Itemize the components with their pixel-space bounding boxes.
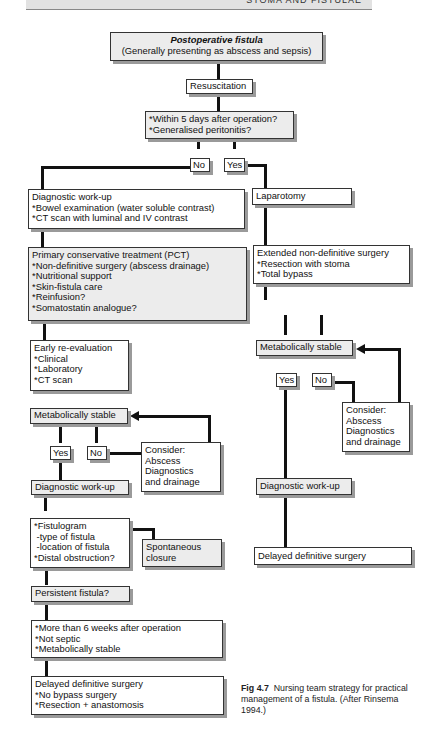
connector xyxy=(95,423,98,443)
text-line: *Metabolically stable xyxy=(35,644,219,655)
no-text: No xyxy=(315,374,327,385)
connector xyxy=(197,139,200,149)
decision-line: *Within 5 days after operation? xyxy=(149,114,290,125)
text-line: Delayed definitive surgery xyxy=(35,679,220,690)
text-line: Persistent fistula? xyxy=(35,588,126,599)
workup-label: Diagnostic work-up xyxy=(35,482,125,493)
criteria-node: *More than 6 weeks after operation *Not … xyxy=(31,620,223,658)
yes-label: Yes xyxy=(224,158,245,172)
running-head-text: STOMA AND FISTULAE xyxy=(246,0,362,5)
text-line: *Distal obstruction? xyxy=(34,553,126,564)
connector xyxy=(45,658,48,676)
caption-label: Fig 4.7 xyxy=(241,683,269,693)
fistulogram-node: *Fistulogram -type of fistula -location … xyxy=(30,518,130,568)
text-line: Early re-evaluation xyxy=(34,343,125,354)
text-line: and drainage xyxy=(346,437,406,448)
start-node: Postoperative fistula (Generally present… xyxy=(110,32,323,61)
text-line: Consider: xyxy=(346,405,406,416)
text-line: *Fistulogram xyxy=(34,521,126,532)
decision-line: *Generalised peritonitis? xyxy=(149,125,290,136)
text-line: Extended non-definitive surgery xyxy=(257,248,406,259)
figure-caption: Fig 4.7 Nursing team strategy for practi… xyxy=(241,683,421,715)
consider-right-node: Consider: Abscess Diagnostics and draina… xyxy=(342,402,410,452)
no-label: No xyxy=(190,158,210,172)
text-line: Diagnostic work-up xyxy=(32,192,241,203)
text-line: *CT scan with luminal and IV contrast xyxy=(32,213,241,224)
extended-surgery-node: Extended non-definitive surgery *Resecti… xyxy=(253,245,410,284)
yes-text: Yes xyxy=(279,374,294,385)
no-text: No xyxy=(90,447,102,458)
workup-label: Diagnostic work-up xyxy=(260,481,348,492)
metabolically-stable-left: Metabolically stable xyxy=(30,408,128,424)
connector xyxy=(264,205,267,247)
resuscitation-node: Resuscitation xyxy=(186,79,253,94)
connector xyxy=(244,164,266,167)
connector xyxy=(43,320,46,340)
connector xyxy=(44,493,47,511)
connector xyxy=(264,283,267,300)
diagnostic-workup-left: Diagnostic work-up xyxy=(31,480,129,495)
text-line: Delayed definitive surgery xyxy=(258,551,408,562)
text-line: *Total bypass xyxy=(257,269,406,280)
connector xyxy=(208,415,211,443)
connector xyxy=(284,380,287,492)
arrow-head-icon xyxy=(356,344,365,354)
resuscitation-label: Resuscitation xyxy=(190,81,249,92)
arrow-head-icon xyxy=(130,411,139,421)
connector xyxy=(59,423,62,443)
connector xyxy=(320,315,323,335)
running-head: STOMA AND FISTULAE xyxy=(26,0,372,10)
no-text: No xyxy=(193,159,205,170)
connector xyxy=(106,452,142,455)
metab-label: Metabolically stable xyxy=(34,410,124,421)
start-title: Postoperative fistula xyxy=(114,35,319,46)
yes-text: Yes xyxy=(53,447,68,458)
diagnostic-workup-right: Diagnostic work-up xyxy=(256,478,352,495)
yes-label-left: Yes xyxy=(50,446,71,460)
laparotomy-label: Laparotomy xyxy=(256,191,348,202)
no-label-left: No xyxy=(87,446,107,460)
connector xyxy=(233,139,236,149)
connector xyxy=(217,93,220,112)
text-line: Spontaneous xyxy=(146,542,218,553)
text-line: *CT scan xyxy=(34,375,125,386)
connector xyxy=(45,567,48,585)
connector xyxy=(41,228,44,248)
text-line: and drainage xyxy=(145,477,217,488)
yes-text: Yes xyxy=(227,159,242,170)
consider-left-node: Consider: Abscess Diagnostics and draina… xyxy=(141,442,221,492)
connector xyxy=(284,497,287,547)
persistent-fistula-node: Persistent fistula? xyxy=(31,586,130,602)
text-line: Consider: xyxy=(145,445,217,456)
connector xyxy=(365,348,401,351)
delayed-surgery-left-node: Delayed definitive surgery *No bypass su… xyxy=(31,676,224,715)
connector xyxy=(59,458,62,480)
connector xyxy=(284,315,287,335)
laparotomy-node: Laparotomy xyxy=(252,188,352,205)
connector xyxy=(352,381,355,403)
connector xyxy=(398,348,401,403)
connector xyxy=(264,164,267,190)
text-line: *More than 6 weeks after operation xyxy=(35,623,219,634)
diagnostic-workup-node: Diagnostic work-up *Bowel examination (w… xyxy=(28,189,245,229)
delayed-surgery-right-node: Delayed definitive surgery xyxy=(254,547,412,565)
metabolically-stable-right: Metabolically stable xyxy=(256,340,353,356)
text-line: closure xyxy=(146,553,218,564)
connector xyxy=(130,528,154,531)
text-line: Primary conservative treatment (PCT) xyxy=(32,250,243,261)
spontaneous-closure-node: Spontaneous closure xyxy=(142,539,222,567)
early-reevaluation-node: Early re-evaluation *Clinical *Laborator… xyxy=(30,340,129,391)
connector xyxy=(41,166,191,169)
text-line: *Resection + anastomosis xyxy=(35,700,220,711)
connector xyxy=(45,601,48,621)
connector xyxy=(138,415,211,418)
pct-node: Primary conservative treatment (PCT) *No… xyxy=(28,247,247,321)
metab-label: Metabolically stable xyxy=(260,342,349,353)
start-subtitle: (Generally presenting as abscess and sep… xyxy=(114,46,319,57)
decision-early-node: *Within 5 days after operation? *General… xyxy=(145,111,294,139)
connector xyxy=(217,61,220,79)
text-line: *Somatostatin analogue? xyxy=(32,303,243,314)
yes-label-right: Yes xyxy=(276,373,297,387)
no-label-right: No xyxy=(312,373,332,387)
